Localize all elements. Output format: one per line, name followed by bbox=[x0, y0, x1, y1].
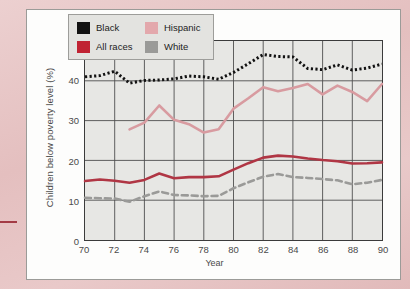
x-tick-label: 84 bbox=[280, 244, 306, 255]
series-line-all-races bbox=[85, 156, 382, 183]
x-tick-label: 80 bbox=[221, 244, 247, 255]
x-tick-label: 74 bbox=[131, 244, 157, 255]
legend-label-black: Black bbox=[96, 22, 119, 33]
legend-label-hispanic: Hispanic bbox=[164, 22, 200, 33]
legend-item-white: White bbox=[145, 41, 223, 53]
left-edge-rule bbox=[0, 221, 17, 223]
data-series-layer bbox=[85, 41, 382, 240]
y-tick-label: 40 bbox=[53, 75, 79, 86]
chart-legend: Black Hispanic All races White bbox=[68, 14, 214, 60]
legend-label-white: White bbox=[164, 41, 188, 52]
y-tick-label: 20 bbox=[53, 155, 79, 166]
series-line-white bbox=[85, 174, 382, 202]
legend-swatch-all-races-icon bbox=[77, 41, 90, 53]
y-tick-label: 10 bbox=[53, 195, 79, 206]
legend-item-all-races: All races bbox=[77, 41, 145, 53]
legend-swatch-white-icon bbox=[145, 41, 158, 53]
x-tick-label: 70 bbox=[71, 244, 97, 255]
chart-card: Children below poverty level (%) Year 01… bbox=[26, 9, 401, 280]
series-line-hispanic bbox=[130, 84, 382, 133]
x-tick-label: 82 bbox=[250, 244, 276, 255]
legend-label-all-races: All races bbox=[96, 41, 132, 52]
legend-item-black: Black bbox=[77, 22, 145, 34]
page-background: Children below poverty level (%) Year 01… bbox=[0, 0, 410, 289]
x-tick-label: 76 bbox=[161, 244, 187, 255]
legend-swatch-black-icon bbox=[77, 22, 90, 34]
legend-swatch-hispanic-icon bbox=[145, 22, 158, 34]
plot-area bbox=[84, 40, 383, 241]
x-tick-label: 88 bbox=[340, 244, 366, 255]
x-tick-label: 78 bbox=[191, 244, 217, 255]
x-tick-label: 90 bbox=[370, 244, 396, 255]
y-tick-label: 30 bbox=[53, 115, 79, 126]
x-tick-label: 72 bbox=[101, 244, 127, 255]
x-tick-label: 86 bbox=[310, 244, 336, 255]
legend-item-hispanic: Hispanic bbox=[145, 22, 223, 34]
x-axis-title: Year bbox=[27, 258, 402, 268]
